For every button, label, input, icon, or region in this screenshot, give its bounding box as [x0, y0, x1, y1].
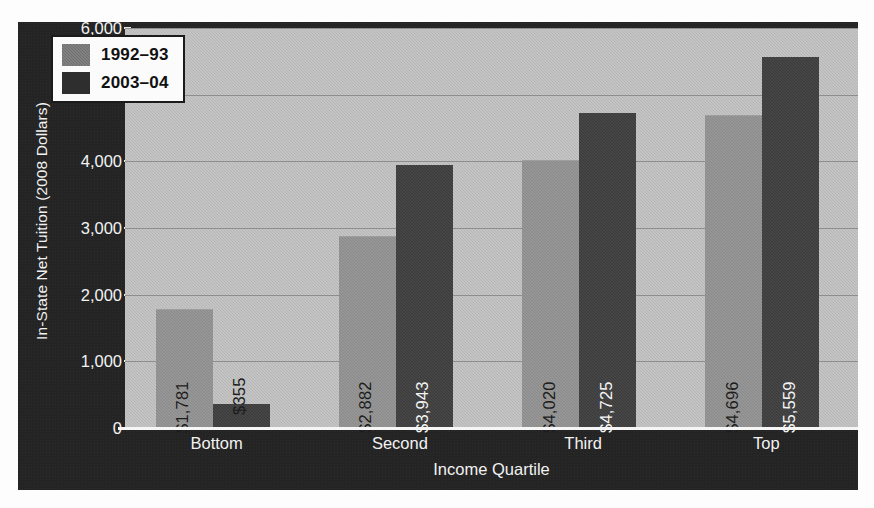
legend-entry-1[interactable]: 2003–04: [62, 72, 169, 94]
y-tick-label: 4,000: [50, 152, 122, 171]
y-tick-label: 3,000: [50, 219, 122, 238]
x-tick-label-third: Third: [564, 434, 602, 453]
legend-entry-0[interactable]: 1992–93: [62, 44, 169, 66]
bar-value-label: $1,781: [173, 381, 192, 433]
bar-value-label: $4,696: [723, 381, 742, 433]
bar-value-label: $4,725: [597, 381, 616, 433]
x-tick-label-second: Second: [372, 434, 428, 453]
legend-swatch-2003-04: [62, 72, 90, 94]
plot-area: $1,781$355$2,882$3,943$4,020$4,725$4,696…: [125, 28, 858, 428]
bar-value-label: $3,943: [413, 381, 432, 433]
y-tick-label: 2,000: [50, 285, 122, 304]
x-axis-title: Income Quartile: [125, 460, 858, 479]
legend-label-2003-04: 2003–04: [101, 73, 169, 93]
bar-value-label: $5,559: [780, 381, 799, 433]
gridline: [125, 95, 858, 96]
chart-figure: In-State Net Tuition (2008 Dollars) 01,0…: [0, 0, 874, 508]
legend: 1992–93 2003–04: [51, 35, 185, 103]
bar-top-new[interactable]: [762, 57, 819, 428]
x-tick-label-bottom: Bottom: [190, 434, 242, 453]
y-tick-label: 1,000: [50, 352, 122, 371]
chart-panel: In-State Net Tuition (2008 Dollars) 01,0…: [18, 22, 858, 490]
bar-value-label: $355: [230, 378, 249, 416]
legend-label-1992-93: 1992–93: [101, 45, 169, 65]
x-axis-line: [118, 427, 858, 430]
y-tick-label: 0: [50, 419, 122, 438]
bar-value-label: $4,020: [540, 381, 559, 433]
gridline: [125, 28, 858, 29]
x-tick-label-top: Top: [753, 434, 780, 453]
legend-swatch-1992-93: [62, 44, 90, 66]
bar-value-label: $2,882: [356, 381, 375, 433]
